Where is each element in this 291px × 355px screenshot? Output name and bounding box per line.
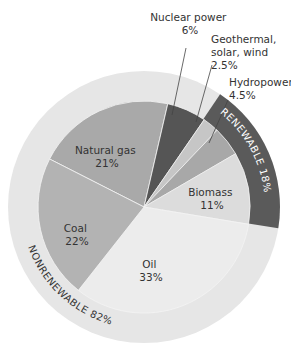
label-hydropower: Hydropower 4.5%	[229, 76, 291, 101]
label-oil: Oil 33%	[139, 258, 162, 283]
energy-pie-chart: Nuclear power 6% Geothermal, solar, wind…	[0, 0, 291, 355]
label-coal: Coal 22%	[64, 222, 90, 247]
label-geothermal: Geothermal, solar, wind 2.5%	[211, 33, 280, 71]
